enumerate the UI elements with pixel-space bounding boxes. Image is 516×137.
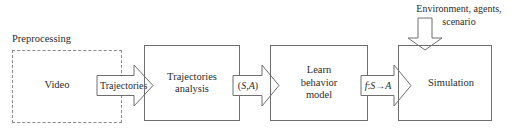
node-simulation-label: Simulation [404, 45, 498, 121]
arrow-trajectories-label: Trajectories [96, 64, 136, 107]
arrow-environment-input-caption-line-1: Environment, agents, [402, 3, 516, 16]
node-learn-behavior-model-label: Learn behavior model [270, 45, 368, 121]
node-trajectories-analysis-line-1: Trajectories [167, 71, 217, 83]
arrow-state-action-label: (S, A) [232, 64, 264, 107]
node-learn-behavior-model-line-1: Learn [307, 64, 331, 76]
node-learn-behavior-model-line-3: model [306, 89, 332, 101]
arrow-policy-function-label: f: S → A [360, 64, 396, 107]
arrow-state-action-close-paren: ) [255, 80, 258, 91]
node-trajectories-analysis-line-2: analysis [175, 83, 209, 95]
arrow-policy-function-symbol-a: A [385, 80, 391, 91]
node-learn-behavior-model-line-2: behavior [301, 77, 338, 89]
node-video-label: Video [44, 79, 69, 91]
node-simulation-text: Simulation [428, 77, 474, 89]
node-trajectories-analysis-label: Trajectories analysis [144, 45, 240, 121]
node-video: Video [22, 73, 92, 97]
preprocessing-group-caption: Preprocessing [12, 33, 71, 44]
arrow-policy-function-maps-to-icon: → [375, 80, 385, 91]
flow-diagram: Preprocessing Video Trajectories Traject… [0, 0, 516, 137]
